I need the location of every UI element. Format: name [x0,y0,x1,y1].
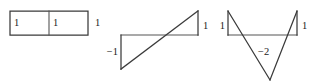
panel-triangle-wave: 1 −2 1 [220,11,308,80]
panel2-label-right-one: 1 [203,20,208,31]
panel1-label-left-one: 1 [14,17,19,28]
panel-square-pulse: 1 1 1 [10,11,100,35]
panel1-label-right-one: 1 [95,17,100,28]
panel3-label-left-one: 1 [220,20,225,31]
panel3-label-right-one: 1 [302,20,307,31]
panel1-label-mid-one: 1 [53,17,58,28]
sawtooth-ramp-line [121,11,198,69]
panel-sawtooth-ramp: −1 1 [107,11,208,69]
math-figure-container: 1 1 1 −1 1 1 −2 1 [0,0,312,84]
waveform-figure-svg: 1 1 1 −1 1 1 −2 1 [0,0,312,84]
panel2-label-minus-one: −1 [107,46,118,57]
panel3-label-minus-two: −2 [258,46,269,57]
triangle-ascending-edge [270,11,297,80]
